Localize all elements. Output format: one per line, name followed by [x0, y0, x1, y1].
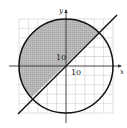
x-tick-label: 10: [71, 68, 81, 77]
x-axis-label: x: [120, 68, 124, 76]
region-plot: y x 10 10: [0, 0, 127, 128]
y-tick-label: 10: [56, 53, 66, 62]
y-axis-arrow-icon: [64, 9, 67, 13]
y-axis-label: y: [58, 7, 64, 15]
